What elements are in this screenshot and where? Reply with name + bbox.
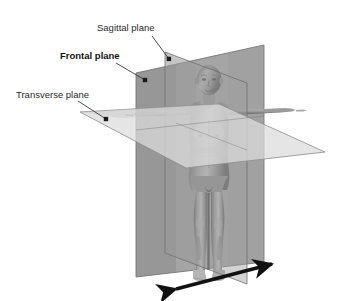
sagittal-plane bbox=[165, 52, 247, 284]
sagittal-leader-dot bbox=[167, 57, 171, 61]
frontal-leader-dot bbox=[143, 78, 147, 82]
sagittal-plane-label: Sagittal plane bbox=[97, 22, 155, 33]
frontal-plane-label: Frontal plane bbox=[60, 50, 120, 61]
planes-svg: Sagittal plane Frontal plane Transverse … bbox=[0, 0, 346, 301]
transverse-plane-label: Transverse plane bbox=[16, 89, 89, 100]
transverse-leader-dot bbox=[104, 117, 108, 121]
anatomical-planes-figure: Sagittal plane Frontal plane Transverse … bbox=[0, 0, 346, 301]
